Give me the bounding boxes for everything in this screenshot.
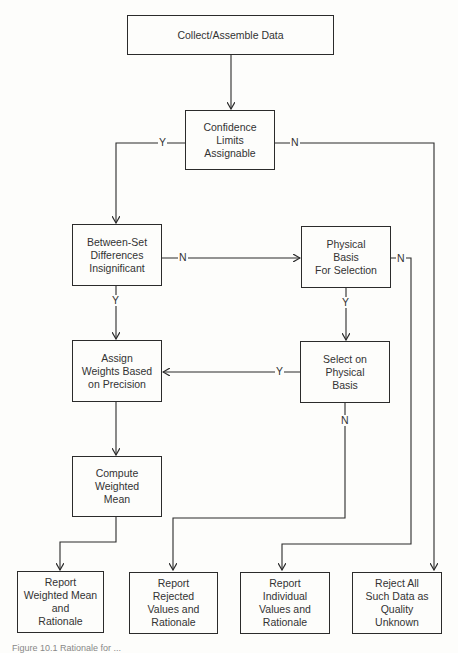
node-label: Reject All Such Data as Quality Unknown	[365, 577, 428, 629]
node-label: Select on Physical Basis	[323, 353, 367, 392]
node-label: Collect/Assemble Data	[177, 29, 283, 42]
node-report-individual-values: Report Individual Values and Rationale	[240, 572, 330, 634]
edge-label-confidence-no: N	[290, 137, 300, 148]
node-label: Assign Weights Based on Precision	[82, 352, 152, 391]
node-select-on-physical-basis: Select on Physical Basis	[300, 341, 390, 403]
node-label: Between-Set Differences Insignificant	[87, 236, 147, 275]
node-compute-weighted-mean: Compute Weighted Mean	[72, 456, 162, 517]
edge-label-select-yes: Y	[275, 366, 284, 377]
edge-label-select-no: N	[340, 415, 350, 426]
node-label: Confidence Limits Assignable	[203, 121, 256, 160]
node-report-weighted-mean: Report Weighted Mean and Rationale	[17, 571, 104, 633]
figure-caption: Figure 10.1 Rationale for ...	[12, 643, 121, 653]
node-collect-assemble-data: Collect/Assemble Data	[127, 15, 334, 55]
edge-label-physical-no: N	[396, 253, 406, 264]
node-label: Report Individual Values and Rationale	[259, 577, 311, 629]
node-report-rejected-values: Report Rejected Values and Rationale	[129, 572, 218, 634]
node-label: Compute Weighted Mean	[95, 467, 139, 506]
node-reject-all-data: Reject All Such Data as Quality Unknown	[352, 572, 442, 634]
edge-label-between-no: N	[178, 252, 188, 263]
edge-label-confidence-yes: Y	[158, 137, 167, 148]
node-between-set-differences: Between-Set Differences Insignificant	[72, 224, 162, 286]
node-confidence-limits-assignable: Confidence Limits Assignable	[185, 110, 275, 170]
node-label: Report Weighted Mean and Rationale	[24, 576, 97, 628]
edge-label-physical-yes: Y	[341, 297, 350, 308]
node-physical-basis-for-selection: Physical Basis For Selection	[301, 226, 391, 288]
node-label: Report Rejected Values and Rationale	[148, 577, 200, 629]
node-label: Physical Basis For Selection	[315, 238, 377, 277]
node-assign-weights: Assign Weights Based on Precision	[72, 340, 162, 402]
edge-label-between-yes: Y	[111, 295, 120, 306]
